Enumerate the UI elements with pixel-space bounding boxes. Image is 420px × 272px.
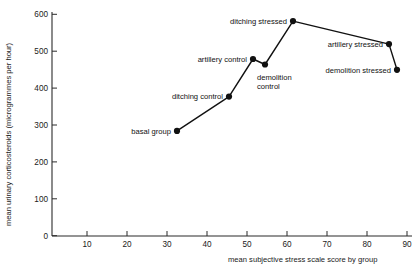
y-tick-label: 500 xyxy=(34,47,48,56)
y-tick-label: 400 xyxy=(34,84,48,93)
y-axis-tick-labels: 600 500 400 300 200 100 0 xyxy=(34,10,48,240)
x-tick-label: 40 xyxy=(202,240,212,249)
point-label-ditching-stressed: ditching stressed xyxy=(230,17,287,26)
point-label-demolition-control-line1: demolition xyxy=(257,73,292,82)
x-tick-label: 10 xyxy=(82,240,92,249)
chart-container: 600 500 400 300 200 100 0 10 20 30 40 5 xyxy=(0,0,420,272)
y-axis-ticks xyxy=(52,14,57,235)
data-point-ditching-control[interactable] xyxy=(226,94,232,100)
y-tick-label: 300 xyxy=(34,121,48,130)
point-label-artillery-stressed: artillery stressed xyxy=(328,40,383,49)
data-point-artillery-stressed[interactable] xyxy=(386,41,392,47)
x-axis-tick-labels: 10 20 30 40 50 60 70 80 90 xyxy=(82,240,412,249)
point-label-ditching-control: ditching control xyxy=(172,92,223,101)
y-tick-label: 200 xyxy=(34,158,48,167)
y-axis-title: mean urinary corticosteroids (microgramm… xyxy=(4,42,13,226)
data-point-demolition-stressed[interactable] xyxy=(394,67,400,73)
y-tick-label: 600 xyxy=(34,10,48,19)
point-label-artillery-control: artillery control xyxy=(198,55,248,64)
x-axis-title: mean subjective stress scale score by gr… xyxy=(228,255,377,264)
x-tick-label: 60 xyxy=(282,240,292,249)
x-tick-label: 90 xyxy=(402,240,412,249)
y-tick-label: 100 xyxy=(34,195,48,204)
point-label-demolition-stressed: demolition stressed xyxy=(326,66,391,75)
x-axis-ticks xyxy=(87,231,407,236)
data-point-artillery-control[interactable] xyxy=(250,56,256,62)
x-tick-label: 80 xyxy=(362,240,372,249)
point-label-demolition-control-line2: control xyxy=(257,82,280,91)
scatter-plot-svg: 600 500 400 300 200 100 0 10 20 30 40 5 xyxy=(0,0,420,272)
data-point-ditching-stressed[interactable] xyxy=(290,18,296,24)
x-tick-label: 20 xyxy=(122,240,132,249)
point-label-basal-group: basal group xyxy=(131,127,171,136)
x-tick-label: 50 xyxy=(242,240,252,249)
data-point-demolition-control[interactable] xyxy=(262,61,268,67)
x-tick-label: 30 xyxy=(162,240,172,249)
x-tick-label: 70 xyxy=(322,240,332,249)
y-tick-label: 0 xyxy=(43,232,48,241)
data-point-basal-group[interactable] xyxy=(174,128,180,134)
